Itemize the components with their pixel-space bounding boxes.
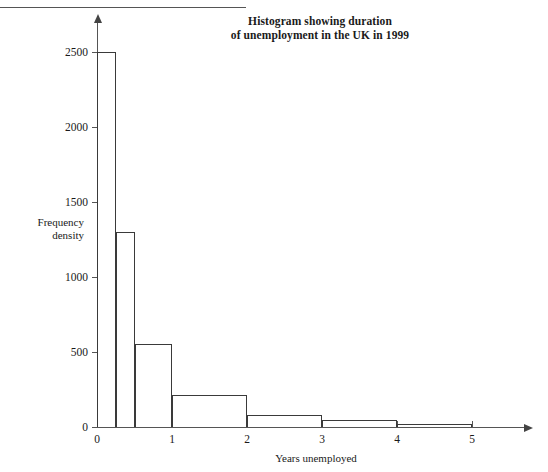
y-tick-label-0: 0: [38, 422, 88, 433]
histogram-bar: [97, 52, 116, 427]
x-tick-label-4: 4: [385, 433, 409, 445]
x-tick-label-3: 3: [310, 433, 334, 445]
x-tick-label-0: 0: [85, 433, 109, 445]
y-axis-arrow-icon: [94, 14, 102, 23]
histogram-bar: [116, 232, 135, 427]
histogram-bar: [322, 420, 397, 427]
plot-area: 0 500 1000 1500 2000 2500 0 1 2 3 4 5 Fr…: [0, 0, 548, 472]
x-axis-arrow-icon: [524, 424, 533, 432]
x-axis-line: [97, 427, 528, 428]
x-axis-title: Years unemployed: [236, 452, 396, 464]
y-tick-label-2500: 2500: [38, 47, 88, 58]
y-tick-label-1000: 1000: [38, 272, 88, 283]
x-tick-label-5: 5: [460, 433, 484, 445]
x-tick-label-2: 2: [235, 433, 259, 445]
histogram-page: Histogram showing duration of unemployme…: [0, 0, 548, 472]
y-axis-title: Frequency density: [6, 216, 84, 242]
y-tick-label-500: 500: [38, 347, 88, 358]
x-tick-label-1: 1: [160, 433, 184, 445]
histogram-bar: [172, 395, 247, 427]
histogram-bar: [247, 415, 322, 427]
x-tick-mark-5: [472, 421, 473, 428]
y-tick-label-1500: 1500: [38, 197, 88, 208]
y-tick-label-2000: 2000: [38, 122, 88, 133]
histogram-bar: [397, 424, 472, 427]
y-axis-title-line-1: Frequency: [6, 216, 84, 229]
y-axis-title-line-2: density: [6, 229, 84, 242]
histogram-bar: [135, 344, 172, 427]
